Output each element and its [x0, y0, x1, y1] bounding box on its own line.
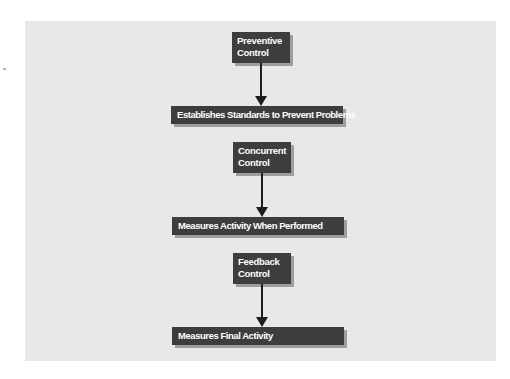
- control-label-line2: Control: [237, 47, 285, 59]
- stray-mark: [3, 68, 6, 70]
- arrow-down-icon: [255, 63, 268, 106]
- feedback-control-box: Feedback Control: [233, 253, 291, 284]
- control-label-line2: Control: [238, 268, 286, 280]
- concurrent-description-box: Measures Activity When Performed: [172, 217, 344, 235]
- concurrent-control-box: Concurrent Control: [233, 142, 291, 173]
- preventive-control-box: Preventive Control: [232, 32, 290, 63]
- arrow-down-icon: [256, 173, 269, 217]
- control-label-line2: Control: [238, 157, 286, 169]
- preventive-description-box: Establishes Standards to Prevent Problem…: [171, 106, 343, 124]
- arrow-down-icon: [256, 284, 269, 327]
- control-label-line1: Feedback: [238, 256, 286, 268]
- feedback-description-box: Measures Final Activity: [172, 327, 344, 345]
- control-label-line1: Preventive: [237, 35, 285, 47]
- control-label-line1: Concurrent: [238, 145, 286, 157]
